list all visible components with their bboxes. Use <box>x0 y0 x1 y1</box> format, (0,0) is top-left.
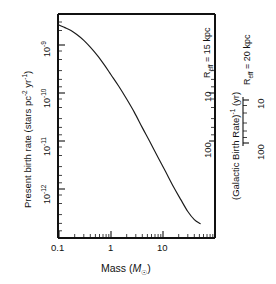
reff20-R: R <box>242 79 252 86</box>
reff20-major-ticks <box>243 100 249 143</box>
y-tick-4-exp: -12 <box>40 185 47 194</box>
y-tick-label-1e-10: 10-10 <box>41 89 52 108</box>
gbr-title-end: (yr) <box>230 92 241 109</box>
x-axis-title-end: ) <box>147 262 151 274</box>
y-tick-4-base: 10 <box>42 194 52 204</box>
y-tick-3-exp: -11 <box>40 137 47 146</box>
x-tick-label-10: 10 <box>157 243 168 253</box>
x-tick-label-1: 1 <box>108 243 113 253</box>
y-tick-1-exp: -9 <box>40 41 47 47</box>
y-axis-title-mid: yr <box>22 80 33 91</box>
x-tick-label-0.1: 0.1 <box>51 243 64 253</box>
galactic-birth-rate-axis-title: (Galactic Birth Rate)-1 (yr) <box>230 92 241 200</box>
reff20-tick-10: 10 <box>256 98 266 109</box>
x-axis-title: Mass (M☉) <box>101 263 151 277</box>
y-axis-title-sup1: -2 <box>21 90 28 96</box>
y-axis-title-end: ) <box>22 71 33 74</box>
figure-root: Present birth rate (stars pc-2 yr-1) 10-… <box>0 0 276 284</box>
y-tick-label-1e-9: 10-9 <box>41 41 52 57</box>
y-axis-title: Present birth rate (stars pc-2 yr-1) <box>22 71 33 208</box>
reff15-axis-title: Reff = 15 kpc <box>203 28 214 78</box>
y-tick-2-exp: -10 <box>40 89 47 98</box>
y-tick-label-1e-12: 10-12 <box>41 185 52 204</box>
y-tick-label-1e-11: 10-11 <box>41 137 52 156</box>
reff20-rest: = 20 kpc <box>242 35 252 72</box>
reff15-subscript: eff <box>207 64 214 71</box>
y-tick-3-base: 10 <box>42 146 52 156</box>
x-axis-title-main: Mass ( <box>101 262 133 274</box>
reff15-tick-10: 10 <box>203 91 213 102</box>
y-axis-title-text: Present birth rate (stars pc <box>22 96 33 208</box>
y-axis-title-sup2: -1 <box>21 74 28 80</box>
reff20-subscript: eff <box>247 71 254 78</box>
y-major-ticks <box>58 45 65 189</box>
x-axis-title-symbol: M <box>133 262 142 274</box>
reff20-minor-ticks <box>243 106 247 138</box>
birth-rate-curve <box>58 24 200 223</box>
reff15-tick-100: 100 <box>203 142 213 158</box>
gbr-title-main: (Galactic Birth Rate) <box>230 114 241 200</box>
y-tick-2-base: 10 <box>42 98 52 108</box>
reff15-R: R <box>202 72 212 79</box>
axes-frame <box>58 14 215 238</box>
reff15-minor-ticks <box>211 71 215 135</box>
gbr-title-sup: -1 <box>229 109 236 115</box>
y-tick-1-base: 10 <box>42 47 52 57</box>
y-minor-ticks <box>58 22 62 231</box>
x-minor-ticks <box>75 234 213 238</box>
reff20-tick-100: 100 <box>256 144 266 160</box>
reff15-rest: = 15 kpc <box>202 28 212 65</box>
reff20-axis <box>243 97 249 146</box>
reff20-axis-title: Reff = 20 kpc <box>243 35 254 85</box>
